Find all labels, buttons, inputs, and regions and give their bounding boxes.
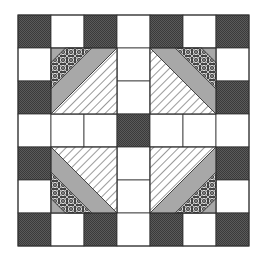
light-square — [183, 114, 216, 147]
dark-square — [216, 213, 249, 246]
light-square — [117, 180, 150, 213]
dark-square — [117, 114, 150, 147]
diagonal-block-top-left — [51, 48, 117, 114]
light-square — [51, 114, 84, 147]
light-square — [84, 114, 117, 147]
dark-square — [150, 213, 183, 246]
diagonal-block-bottom-left — [51, 147, 117, 213]
dark-square — [216, 147, 249, 180]
dark-square — [18, 15, 51, 48]
light-square — [183, 213, 216, 246]
dark-square — [84, 213, 117, 246]
light-square — [51, 15, 84, 48]
light-square — [183, 15, 216, 48]
light-square — [216, 114, 249, 147]
dark-square — [84, 15, 117, 48]
dark-square — [18, 81, 51, 114]
light-square — [18, 180, 51, 213]
light-square — [117, 15, 150, 48]
light-square — [150, 114, 183, 147]
quilt-pattern — [0, 0, 265, 260]
dark-square — [18, 147, 51, 180]
dark-square — [216, 81, 249, 114]
diagonal-block-top-right — [150, 48, 216, 114]
light-square — [216, 180, 249, 213]
diagonal-block-bottom-right — [150, 147, 216, 213]
light-square — [117, 81, 150, 114]
dark-square — [216, 15, 249, 48]
light-square — [51, 213, 84, 246]
light-square — [216, 48, 249, 81]
dark-square — [150, 15, 183, 48]
light-square — [18, 114, 51, 147]
light-square — [18, 48, 51, 81]
light-square — [117, 48, 150, 81]
light-square — [117, 213, 150, 246]
light-square — [117, 147, 150, 180]
dark-square — [18, 213, 51, 246]
